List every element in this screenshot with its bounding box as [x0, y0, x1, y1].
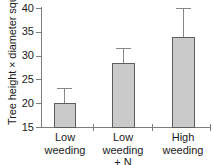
y-tick-label-35: 35: [10, 26, 34, 37]
y-tick-mark-15: [36, 127, 42, 128]
error-bar-line-1: [64, 88, 65, 103]
bar-low-weeding-plus-n: [112, 63, 135, 128]
x-tick-mark-3: [210, 124, 211, 131]
x-category-line: High: [152, 131, 213, 144]
error-bar-cap-2: [116, 48, 131, 49]
x-category-line: + N: [92, 156, 154, 165]
y-tick-mark-35: [36, 32, 42, 33]
y-tick-label-15: 15: [10, 122, 34, 133]
bar-high-weeding: [172, 37, 195, 128]
x-category-label-high-weeding: High weeding: [152, 131, 213, 156]
y-tick-mark-20: [36, 103, 42, 104]
y-tick-label-40: 40: [10, 3, 34, 14]
y-tick-label-25: 25: [10, 74, 34, 85]
error-bar-cap-3: [176, 8, 191, 9]
y-tick-mark-40: [36, 8, 42, 9]
bar-low-weeding: [54, 103, 76, 128]
x-category-line: weeding: [152, 144, 213, 157]
y-axis-line: [41, 7, 42, 128]
y-tick-label-30: 30: [10, 50, 34, 61]
x-category-line: Low: [34, 131, 96, 144]
x-category-label-low-weeding: Low weeding: [34, 131, 96, 156]
y-tick-mark-30: [36, 56, 42, 57]
bar-chart-figure: Tree height × diameter square 40 35 30 2…: [0, 0, 213, 165]
error-bar-line-2: [123, 48, 124, 63]
plot-area: 40 35 30 25 20 15 Low weeding Low weedin…: [0, 0, 213, 165]
x-tick-mark-2: [152, 124, 153, 131]
y-tick-mark-25: [36, 79, 42, 80]
y-tick-label-20: 20: [10, 98, 34, 109]
error-bar-cap-1: [57, 88, 72, 89]
x-tick-mark-1: [93, 124, 94, 131]
x-category-label-low-weeding-plus-n: Low weeding + N: [92, 131, 154, 165]
error-bar-line-3: [183, 8, 184, 37]
x-category-line: Low: [92, 131, 154, 144]
x-category-line: weeding: [34, 144, 96, 157]
x-category-line: weeding: [92, 144, 154, 157]
